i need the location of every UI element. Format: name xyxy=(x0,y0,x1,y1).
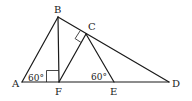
angle-label-E: 60° xyxy=(91,72,107,82)
segment-BD xyxy=(58,17,169,82)
angle-label-A: 60° xyxy=(28,73,44,83)
diagram-svg: A B C F E D 60° 60° xyxy=(0,0,192,101)
geometry-diagram: A B C F E D 60° 60° xyxy=(0,0,192,101)
label-D: D xyxy=(172,78,180,89)
label-E: E xyxy=(110,86,117,97)
segment-BF xyxy=(58,17,59,82)
label-B: B xyxy=(54,4,61,15)
right-angle-mark-F xyxy=(47,71,59,83)
right-angle-mark-C xyxy=(75,31,81,43)
label-A: A xyxy=(11,78,20,89)
segment-FC xyxy=(59,34,86,82)
label-F: F xyxy=(55,86,62,97)
label-C: C xyxy=(88,21,96,32)
